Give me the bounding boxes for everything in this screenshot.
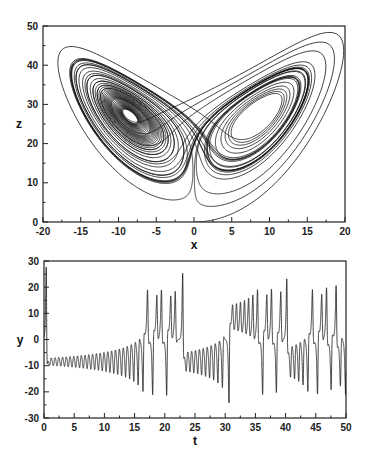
y-tick-label: 0 — [33, 334, 39, 345]
x-tick-label: 20 — [159, 422, 171, 433]
y-tick-label: -10 — [25, 360, 40, 371]
x-tick-label: 50 — [340, 422, 352, 433]
y-tick-label: 0 — [32, 217, 38, 228]
x-tick-label: 10 — [264, 226, 276, 237]
time-series-curve — [44, 267, 346, 403]
x-tick-label: -20 — [36, 226, 51, 237]
y-tick-label: 20 — [28, 282, 40, 293]
y-time-series-plot: 05101520253035404550-30-20-100102030 t y — [17, 256, 352, 449]
x-tick-label: -10 — [111, 226, 126, 237]
x-tick-label: 15 — [129, 422, 141, 433]
figure: -20-15-10-50510152001020304050 x z 05101… — [0, 0, 372, 464]
top-y-axis-label: z — [16, 117, 22, 131]
x-tick-label: 20 — [339, 226, 351, 237]
x-tick-label: 35 — [250, 422, 262, 433]
bottom-plot-frame — [44, 261, 346, 418]
y-tick-label: -20 — [25, 386, 40, 397]
y-tick-label: 30 — [28, 256, 40, 267]
x-tick-label: -5 — [152, 226, 161, 237]
y-tick-label: 10 — [27, 177, 39, 188]
bottom-x-axis-label: t — [193, 434, 197, 448]
y-tick-label: 40 — [27, 60, 39, 71]
data-line — [58, 32, 344, 222]
y-tick-label: 30 — [27, 99, 39, 110]
data-line — [44, 267, 346, 403]
attractor-curve — [58, 32, 344, 222]
x-tick-label: 45 — [310, 422, 322, 433]
y-tick-label: 10 — [28, 308, 40, 319]
bottom-y-axis-label: y — [17, 333, 24, 347]
x-tick-label: 0 — [191, 226, 197, 237]
bottom-plot-ticks: 05101520253035404550-30-20-100102030 — [25, 256, 352, 434]
x-tick-label: 15 — [302, 226, 314, 237]
x-tick-label: 30 — [220, 422, 232, 433]
x-tick-label: -15 — [74, 226, 89, 237]
top-x-axis-label: x — [191, 238, 198, 252]
xz-phase-plot: -20-15-10-50510152001020304050 x z — [16, 21, 351, 253]
y-tick-label: 50 — [27, 21, 39, 32]
x-tick-label: 5 — [229, 226, 235, 237]
x-tick-label: 0 — [41, 422, 47, 433]
x-tick-label: 10 — [99, 422, 111, 433]
y-tick-label: 20 — [27, 138, 39, 149]
x-tick-label: 40 — [280, 422, 292, 433]
y-tick-label: -30 — [25, 413, 40, 424]
x-tick-label: 5 — [71, 422, 77, 433]
x-tick-label: 25 — [189, 422, 201, 433]
